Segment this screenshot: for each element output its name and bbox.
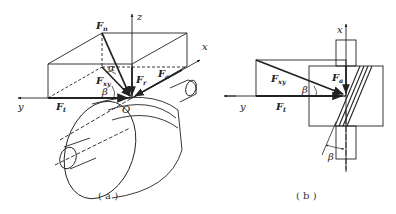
force-Fa-label: Fa	[157, 68, 169, 81]
beta-bottom-label: β	[327, 151, 334, 162]
caption-a: ( a )	[98, 190, 118, 201]
hidden-edge	[48, 67, 102, 98]
beta-top-label: β	[301, 84, 308, 95]
y-axis-label: y	[17, 101, 24, 112]
beta-bottom-arc	[326, 145, 344, 149]
z-axis-label: z	[136, 11, 143, 22]
force-Fxy-arrow	[256, 60, 343, 94]
beta-label: β	[101, 86, 108, 97]
gear-force-diagram: z x y O Fn Fr Fa Ft Fxy α β ( a )	[0, 0, 396, 214]
beta-top-arc	[314, 86, 317, 96]
x-axis-label-b: x	[337, 24, 343, 35]
force-Fr-label: Fr	[135, 74, 147, 87]
y-axis-label-b: y	[239, 101, 246, 112]
force-Fn-label: Fn	[95, 20, 108, 33]
force-Ft-label-b: Ft	[275, 101, 286, 114]
shaft-rear	[170, 80, 196, 102]
force-Fxy-label-b: Fxy	[270, 73, 287, 86]
beta-arc	[112, 86, 115, 98]
gear-tooth-line	[112, 116, 178, 129]
figure-b	[224, 24, 383, 172]
x-axis-label: x	[202, 41, 208, 52]
alpha-label: α	[108, 62, 115, 73]
box-top	[48, 33, 187, 64]
figure-a	[18, 14, 200, 208]
caption-b: ( b )	[296, 190, 317, 201]
force-Fa-label-b: Fa	[331, 72, 343, 85]
force-Ft-label: Ft	[55, 101, 66, 114]
origin-label: O	[122, 104, 130, 115]
